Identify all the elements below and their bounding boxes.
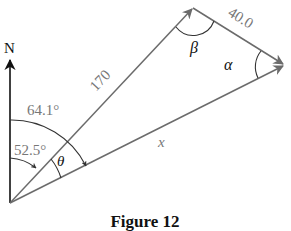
arc-52-5 <box>10 158 36 168</box>
angle-label-64-1: 64.1° <box>27 102 59 118</box>
vector-resultant-x <box>10 66 283 203</box>
vector-triangle-diagram: N 64.1° 52.5° θ β α 170 40.0 x Figure 12 <box>0 0 291 231</box>
angle-label-theta: θ <box>57 153 65 169</box>
angle-label-52-5: 52.5° <box>14 142 46 158</box>
north-label: N <box>4 40 15 56</box>
figure-caption: Figure 12 <box>110 212 179 231</box>
angle-label-alpha: α <box>224 56 233 73</box>
length-label-40: 40.0 <box>225 4 256 31</box>
length-label-170: 170 <box>86 67 113 94</box>
length-label-x: x <box>157 134 165 150</box>
angle-label-beta: β <box>189 39 198 57</box>
arc-alpha <box>255 51 261 78</box>
arc-beta <box>176 21 214 35</box>
